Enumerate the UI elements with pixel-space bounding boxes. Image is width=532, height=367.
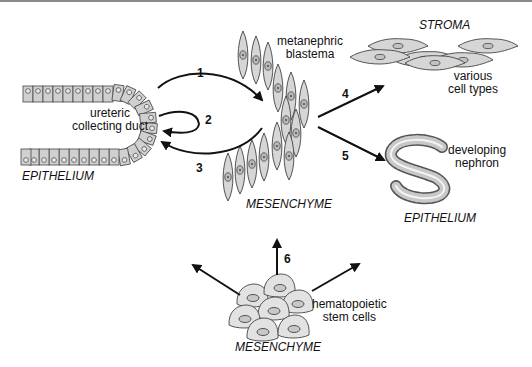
hematopoietic-line-2: stem cells [312, 311, 387, 324]
epithelium-left-label: EPITHELIUM [22, 170, 94, 183]
diagram-canvas [0, 0, 532, 367]
mesenchyme-bottom-label: MESENCHYME [235, 341, 321, 354]
arrow-2 [159, 112, 199, 133]
arrow-6-label: 6 [284, 252, 291, 266]
various-cell-types-label: various cell types [448, 70, 498, 96]
hematopoietic-label: hematopoietic stem cells [312, 298, 387, 324]
ureteric-duct-line-2: collecting duct [72, 120, 148, 133]
arrow-4-label: 4 [342, 87, 349, 101]
developing-nephron [391, 140, 444, 198]
arrow-3-label: 3 [196, 161, 203, 175]
arrow-2-label: 2 [205, 113, 212, 127]
epithelium-right-label: EPITHELIUM [404, 212, 476, 225]
various-line-2: cell types [448, 83, 498, 96]
arrow-right-unlabeled [312, 264, 359, 291]
blastema-line-2: blastema [277, 48, 343, 61]
ureteric-duct-label: ureteric collecting duct [72, 107, 148, 133]
arrow-1 [158, 74, 262, 100]
stroma-cells [350, 39, 518, 70]
nephron-line-2: nephron [448, 157, 506, 170]
arrow-5-label: 5 [342, 149, 349, 163]
stroma-label: STROMA [419, 19, 470, 32]
developing-nephron-label: developing nephron [448, 144, 506, 170]
arrow-left-unlabeled [193, 265, 240, 295]
arrow-1-label: 1 [197, 66, 204, 80]
hematopoietic-stem-cells [229, 274, 313, 341]
arrow-4 [318, 86, 383, 117]
mesenchyme-center-label: MESENCHYME [246, 198, 332, 211]
metanephric-blastema-label: metanephric blastema [277, 35, 343, 61]
arrow-5 [318, 127, 384, 160]
